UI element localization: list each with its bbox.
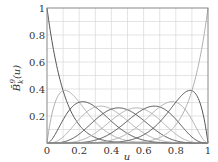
bernstein-chart: 00.20.40.60.81 0.20.40.60.81 u B̄k9(u) (0, 0, 218, 162)
y-tick-label: 0.8 (29, 30, 45, 41)
x-tick-label: 0.8 (168, 145, 184, 156)
x-axis-label: u (124, 151, 130, 162)
y-tick-label: 0.6 (29, 57, 45, 68)
y-axis-label: B̄k9(u) (9, 65, 25, 92)
y-axis-ticks: 0.20.40.60.81 (29, 3, 45, 122)
x-tick-label: 0 (44, 145, 50, 156)
x-tick-label: 0.6 (136, 145, 152, 156)
x-tick-label: 0.2 (71, 145, 87, 156)
grid (47, 8, 208, 143)
svg-text:B̄k9(u): B̄k9(u) (9, 65, 25, 92)
y-tick-label: 0.2 (29, 111, 45, 122)
y-tick-label: 0.4 (29, 84, 45, 95)
x-tick-label: 1 (205, 145, 211, 156)
y-tick-label: 1 (39, 3, 45, 14)
x-tick-label: 0.4 (103, 145, 119, 156)
